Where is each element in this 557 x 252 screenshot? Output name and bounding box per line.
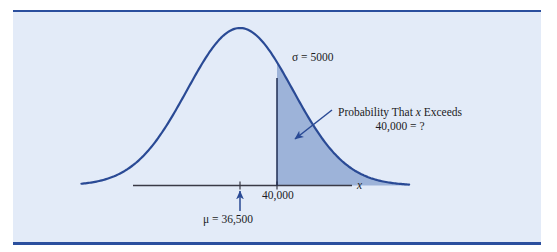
probability-annotation-line2: 40,000 = ? [338,119,462,133]
figure-root: σ = 5000 Probability That x Exceeds 40,0… [0,0,557,252]
mu-label: μ = 36,500 [203,212,253,226]
probability-text-suffix: Exceeds [421,106,462,118]
probability-annotation: Probability That x Exceeds 40,000 = ? [338,105,462,134]
probability-text-prefix: Probability That [338,106,416,118]
sigma-label: σ = 5000 [292,50,333,64]
x-axis-label: x [357,178,362,192]
normal-curve-plot [0,0,557,252]
probability-annotation-line1: Probability That x Exceeds [338,106,462,118]
tick-label-40000: 40,000 [262,188,294,202]
